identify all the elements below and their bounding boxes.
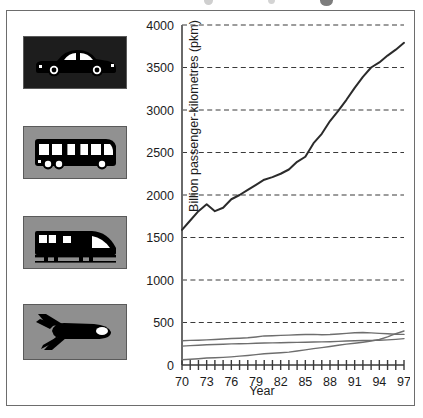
plane-icon [24,305,126,359]
y-tick-label: 3500 [146,61,174,75]
legend-item-plane [23,304,127,360]
car-icon [24,37,126,88]
train-icon [24,217,126,268]
artifact-dot-3 [320,0,333,6]
x-tick-label: 91 [348,375,362,389]
bus-icon [24,127,126,178]
x-tick-label: 97 [397,375,410,389]
y-tick-label: 500 [153,316,174,330]
y-tick-label: 4000 [146,19,174,33]
y-tick-label: 3000 [146,104,174,118]
y-tick-label: 1500 [146,231,174,245]
series-lines [182,43,404,360]
plot-area: Billion passenger-kilometres (pkm) Year … [120,14,410,404]
x-axis-title: Year [182,384,342,398]
y-tick-label: 2500 [146,146,174,160]
grid-lines [182,25,404,323]
chart-svg: 05001000150020002500300035004000 7073767… [120,14,410,404]
y-axis-title: Billion passenger-kilometres (pkm) [185,1,203,231]
legend-item-train [23,216,127,269]
y-tick-label: 0 [167,359,174,373]
legend-item-bus [23,126,127,179]
series-line-car [182,43,404,230]
y-tick-label: 2000 [146,189,174,203]
legend-icon-column [23,36,127,366]
artifact-dot-2 [268,0,275,4]
legend-item-car [23,36,127,89]
clipped-header-artifacts [0,0,423,7]
x-tick-label: 94 [372,375,386,389]
chart-figure: Billion passenger-kilometres (pkm) Year … [0,0,423,418]
y-tick-label: 1000 [146,274,174,288]
y-tick-labels: 05001000150020002500300035004000 [146,19,174,373]
series-line-bus [182,332,404,340]
artifact-dot-1 [204,0,213,5]
